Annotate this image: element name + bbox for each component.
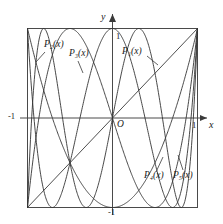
x-axis-label: x bbox=[209, 120, 213, 130]
origin-label: O bbox=[117, 120, 124, 130]
leader-line-p3 bbox=[78, 61, 83, 73]
x-axis-arrow bbox=[200, 115, 207, 121]
curve-label-p4: P₄(x) bbox=[144, 171, 164, 181]
chart-canvas bbox=[0, 0, 223, 224]
curve-label-p3: P₃(x) bbox=[69, 49, 89, 59]
y-tick-minus-one: -1 bbox=[108, 208, 115, 217]
curve-label-p2: P₂(x) bbox=[44, 40, 64, 50]
chebyshev-polynomials-figure: P₂(x) P₃(x) P₁(x) P₄(x) P₅(x) y x O -1 1… bbox=[0, 0, 223, 224]
x-tick-minus-one: -1 bbox=[8, 112, 15, 121]
leader-line-p5 bbox=[178, 155, 183, 170]
y-tick-one: 1 bbox=[116, 32, 120, 41]
x-tick-one: 1 bbox=[192, 121, 196, 130]
curve-label-p5: P₅(x) bbox=[173, 171, 193, 181]
y-axis-arrow bbox=[109, 14, 116, 22]
curve-label-p1: P₁(x) bbox=[122, 47, 142, 57]
leader-line-p1 bbox=[147, 56, 158, 65]
y-axis-label: y bbox=[101, 12, 105, 22]
